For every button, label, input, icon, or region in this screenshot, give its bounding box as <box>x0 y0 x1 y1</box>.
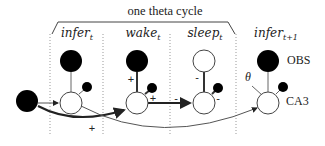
sign-sleep-obs-minus: - <box>195 71 199 83</box>
column-label-infer-t: infert <box>61 26 93 42</box>
theta-input-line <box>252 86 262 95</box>
obs-node-infer-t1 <box>257 50 279 72</box>
sign-input-plus: + <box>89 122 95 134</box>
input-node <box>16 90 38 112</box>
sign-wake-small-plus: + <box>150 92 156 104</box>
column-label-infer-t1: infert+1 <box>254 26 298 42</box>
obs-label: OBS <box>287 53 310 68</box>
ca3-node-sleep-t <box>193 92 215 114</box>
diagram-title: one theta cycle <box>128 4 203 19</box>
theta-label: θ <box>245 70 251 85</box>
sign-wake-obs-plus: + <box>128 73 134 85</box>
sign-sleep-small-minus: - <box>216 92 220 104</box>
small-node-infer-t <box>82 82 92 92</box>
ca3-node-infer-t1 <box>257 92 279 114</box>
obs-node-infer-t <box>60 50 82 72</box>
ca3-node-infer-t <box>60 92 82 114</box>
diagram-canvas <box>0 0 325 146</box>
obs-node-sleep-t <box>193 50 215 72</box>
ca3-node-wake-t <box>126 92 148 114</box>
small-node-infer-t1 <box>278 82 288 92</box>
column-label-sleep-t: sleept <box>187 26 222 42</box>
ca3-label: CA3 <box>286 94 309 109</box>
obs-node-wake-t <box>126 50 148 72</box>
sign-sleep-arrow-minus: - <box>174 92 178 104</box>
column-label-wake-t: waket <box>125 26 160 42</box>
